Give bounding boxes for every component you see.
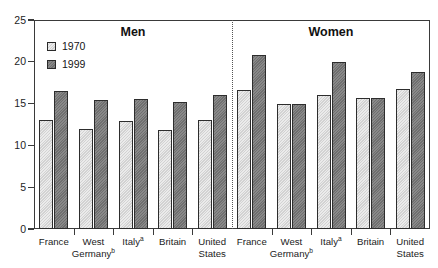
- bar-women-france-1999: [252, 55, 266, 229]
- panel-divider: [232, 20, 233, 229]
- bar-men-britain-1999: [173, 102, 187, 229]
- bar-men-united-states-1999: [213, 95, 227, 229]
- x-tick-mark: [74, 229, 75, 235]
- y-tick-label: 0: [0, 224, 26, 234]
- top-caption-remnant: [0, 0, 438, 9]
- bar-men-britain-1970: [158, 130, 172, 229]
- bar-women-britain-1999: [371, 98, 385, 229]
- y-tick-mark: [28, 187, 34, 188]
- legend-label-1970: 1970: [62, 41, 85, 52]
- x-tick-mark: [272, 229, 273, 235]
- bar-women-italy-1970: [317, 95, 331, 229]
- legend: 1970 1999: [47, 39, 85, 75]
- bar-women-france-1970: [237, 90, 251, 229]
- x-category-label: UnitedStates: [384, 236, 436, 259]
- x-category-footnote: a: [140, 235, 144, 242]
- bar-men-france-1999: [54, 91, 68, 229]
- bar-men-italy-1970: [119, 121, 133, 229]
- bar-women-west-germany-1970: [277, 104, 291, 229]
- chart-root: 0510152025 MenWomen FranceWestGermanybIt…: [0, 0, 438, 268]
- y-tick-mark: [28, 145, 34, 146]
- y-tick-label: 10: [0, 140, 26, 150]
- legend-swatch-1970-icon: [47, 42, 56, 51]
- y-tick-mark: [28, 61, 34, 62]
- legend-item-1999[interactable]: 1999: [47, 57, 85, 72]
- bar-women-united-states-1970: [396, 89, 410, 229]
- y-tick-label: 20: [0, 56, 26, 66]
- legend-swatch-1999-icon: [47, 60, 56, 69]
- bar-men-west-germany-1999: [94, 100, 108, 229]
- x-category-footnote: a: [338, 235, 342, 242]
- bar-women-italy-1999: [332, 62, 346, 229]
- bar-men-west-germany-1970: [79, 129, 93, 229]
- y-tick-mark: [28, 19, 34, 20]
- bar-men-united-states-1970: [198, 120, 212, 229]
- bar-men-italy-1999: [134, 99, 148, 229]
- panel-title-men: Men: [34, 25, 232, 39]
- bar-women-britain-1970: [356, 98, 370, 229]
- x-tick-mark: [113, 229, 114, 235]
- y-tick-mark: [28, 103, 34, 104]
- x-tick-mark: [390, 229, 391, 235]
- x-tick-mark: [192, 229, 193, 235]
- y-tick-label: 25: [0, 15, 26, 25]
- y-tick-mark: [28, 228, 34, 229]
- legend-label-1999: 1999: [62, 59, 85, 70]
- panel-title-women: Women: [232, 25, 430, 39]
- legend-item-1970[interactable]: 1970: [47, 39, 85, 54]
- bar-women-united-states-1999: [411, 72, 425, 229]
- bar-women-west-germany-1999: [292, 104, 306, 229]
- x-tick-mark: [351, 229, 352, 235]
- x-tick-mark: [311, 229, 312, 235]
- y-tick-label: 5: [0, 182, 26, 192]
- x-tick-mark: [153, 229, 154, 235]
- bar-men-france-1970: [39, 120, 53, 229]
- y-tick-label: 15: [0, 98, 26, 108]
